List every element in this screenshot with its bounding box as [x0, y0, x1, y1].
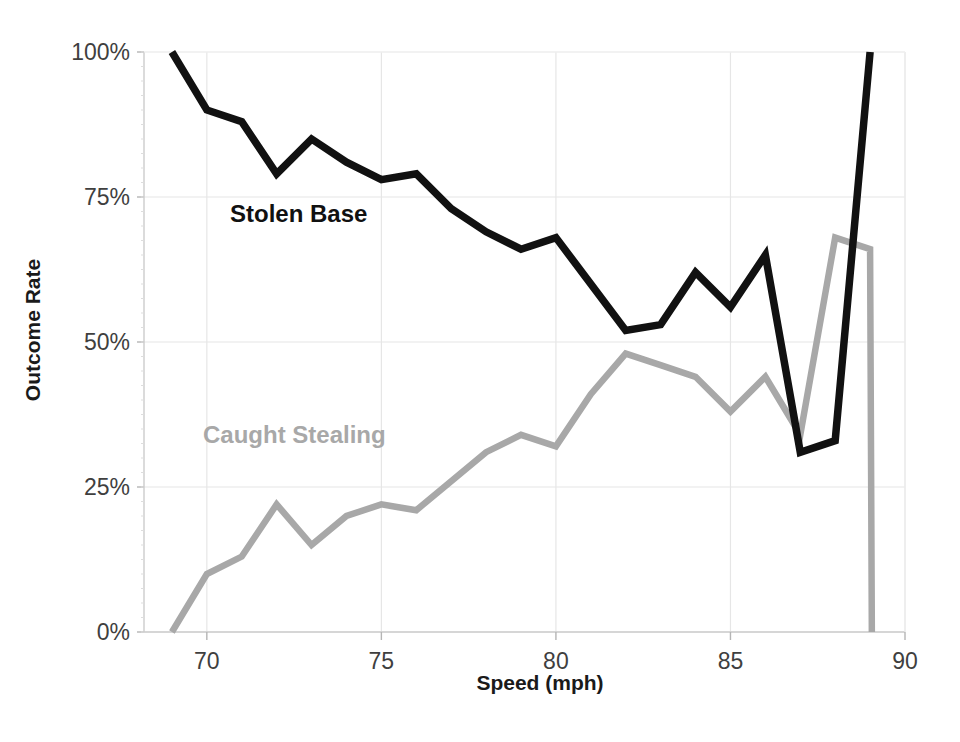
y-tick-label: 50%: [84, 329, 130, 355]
x-tick-label: 90: [892, 648, 918, 674]
series-label-stolen-base: Stolen Base: [230, 200, 367, 227]
y-tick-label: 0%: [97, 619, 130, 645]
y-axis-title: Outcome Rate: [21, 259, 44, 401]
series-label-caught-stealing: Caught Stealing: [203, 421, 386, 448]
y-tick-label: 25%: [84, 474, 130, 500]
chart-page: 0%25%50%75%100% 7075808590 Outcome Rate …: [0, 0, 960, 742]
y-tick-label: 75%: [84, 184, 130, 210]
line-chart: 0%25%50%75%100% 7075808590 Outcome Rate …: [0, 0, 960, 742]
x-tick-label: 85: [718, 648, 744, 674]
x-axis-title: Speed (mph): [476, 671, 603, 694]
x-tick-label: 70: [194, 648, 220, 674]
x-tick-label: 75: [369, 648, 395, 674]
y-tick-label: 100%: [71, 39, 130, 65]
